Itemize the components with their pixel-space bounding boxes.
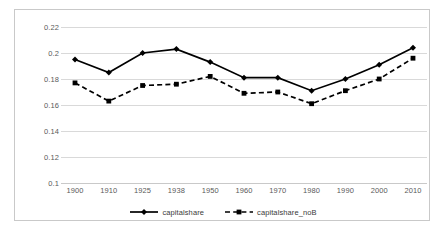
y-axis-tick-label: 0.22	[19, 23, 59, 32]
data-point-square-marker	[411, 56, 416, 61]
y-axis-tick-label: 0.18	[19, 75, 59, 84]
data-point-square-marker	[343, 88, 348, 93]
legend-entry-1[interactable]: capitalshare	[129, 207, 204, 217]
legend-entry-2[interactable]: capitalshare_noB	[224, 207, 317, 217]
data-point-square-marker	[174, 82, 179, 87]
data-point-square-marker	[208, 74, 213, 79]
data-point-diamond-marker	[72, 57, 78, 63]
y-axis-tick-labels: 0.220.20.180.160.140.120.1	[15, 27, 59, 183]
data-point-diamond-marker	[241, 75, 247, 81]
y-axis-tick-label: 0.14	[19, 127, 59, 136]
series-1	[72, 45, 416, 94]
y-axis-tick-label: 0.12	[19, 153, 59, 162]
y-axis-tick-label: 0.16	[19, 101, 59, 110]
x-axis-tick-label: 1960	[235, 186, 252, 195]
plot-area	[61, 27, 427, 183]
x-axis-tick-label: 1938	[168, 186, 185, 195]
x-axis-tick-labels: 1900191019251938195019601970198019902000…	[61, 186, 427, 200]
line-chart: 0.220.20.180.160.140.120.1 1900191019251…	[0, 0, 447, 239]
x-axis-tick-label: 1925	[134, 186, 151, 195]
chart-legend: capitalsharecapitalshare_noB	[15, 203, 431, 221]
data-point-square-marker	[106, 99, 111, 104]
x-axis-tick-label: 1950	[202, 186, 219, 195]
series-line	[75, 58, 413, 103]
x-axis-tick-label: 1990	[337, 186, 354, 195]
x-axis-line	[61, 183, 427, 184]
legend-label: capitalshare	[162, 208, 204, 217]
data-point-diamond-marker	[342, 76, 348, 82]
data-point-square-marker	[309, 101, 314, 106]
data-series-layer	[61, 27, 427, 183]
x-axis-tick-label: 1900	[66, 186, 83, 195]
data-point-diamond-marker	[410, 45, 416, 51]
x-axis-tick-label: 2010	[404, 186, 421, 195]
chart-frame: 0.220.20.180.160.140.120.1 1900191019251…	[14, 9, 430, 221]
data-point-square-marker	[377, 77, 382, 82]
data-point-square-marker	[73, 81, 78, 86]
data-point-diamond-marker	[207, 59, 213, 65]
x-axis-tick-label: 2000	[371, 186, 388, 195]
data-point-square-marker	[275, 90, 280, 95]
x-axis-tick-label: 1910	[100, 186, 117, 195]
y-axis-tick-label: 0.2	[19, 49, 59, 58]
data-point-diamond-marker	[173, 46, 179, 52]
y-axis-tick-label: 0.1	[19, 179, 59, 188]
legend-label: capitalshare_noB	[257, 208, 317, 217]
data-point-square-marker	[242, 91, 247, 96]
data-point-diamond-marker	[275, 75, 281, 81]
x-axis-tick-label: 1980	[303, 186, 320, 195]
data-point-diamond-marker	[309, 88, 315, 94]
legend-swatch	[129, 207, 159, 217]
data-point-square-marker	[140, 83, 145, 88]
data-point-diamond-marker	[376, 62, 382, 68]
legend-swatch	[224, 207, 254, 217]
x-axis-tick-label: 1970	[269, 186, 286, 195]
